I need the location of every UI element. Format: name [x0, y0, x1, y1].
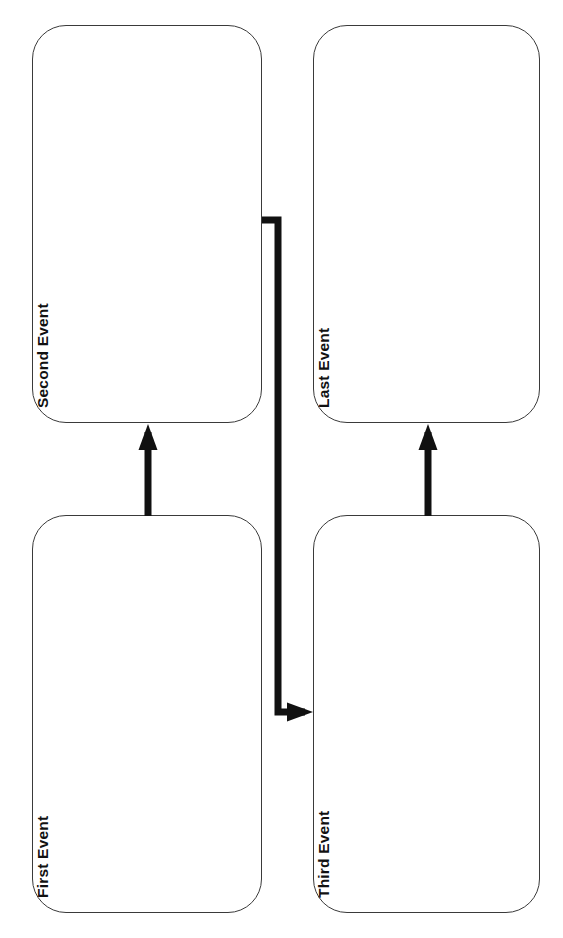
arrowhead-first-to-second	[139, 424, 158, 450]
node-label-first-event: First Event	[34, 816, 52, 898]
arrowhead-second-to-third	[287, 703, 313, 722]
node-second-event[interactable]	[32, 25, 262, 423]
flowchart-canvas: First Event Second Event Third Event Las…	[0, 0, 563, 938]
node-label-second-event: Second Event	[34, 303, 52, 408]
node-label-last-event: Last Event	[315, 328, 333, 408]
arrowhead-third-to-last	[419, 424, 438, 450]
node-last-event[interactable]	[313, 25, 540, 423]
node-third-event[interactable]	[313, 515, 540, 913]
node-label-third-event: Third Event	[315, 811, 333, 898]
edge-second-to-third	[262, 220, 305, 712]
node-first-event[interactable]	[32, 515, 262, 913]
